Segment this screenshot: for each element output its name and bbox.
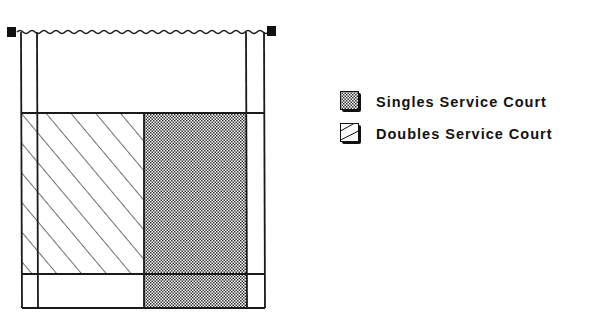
tennis-court-diagram [0,0,607,321]
legend-item-doubles: Doubles Service Court [340,120,553,148]
singles-sideline-left [37,32,38,308]
legend-item-singles: Singles Service Court [340,88,553,116]
dotted-swatch-icon [340,91,362,113]
net-post-left [7,27,16,37]
legend-label-doubles: Doubles Service Court [376,126,553,142]
net-post-right [267,26,276,36]
singles-service-court-area [144,113,246,308]
doubles-sideline-left [21,32,22,308]
hatched-swatch-icon [340,123,362,145]
singles-sideline-right [246,32,247,308]
doubles-sideline-right [264,32,265,308]
legend: Singles Service Court Doubles Service Co… [340,88,553,152]
net [17,31,269,34]
legend-label-singles: Singles Service Court [376,94,547,110]
doubles-service-court-area [21,113,144,274]
